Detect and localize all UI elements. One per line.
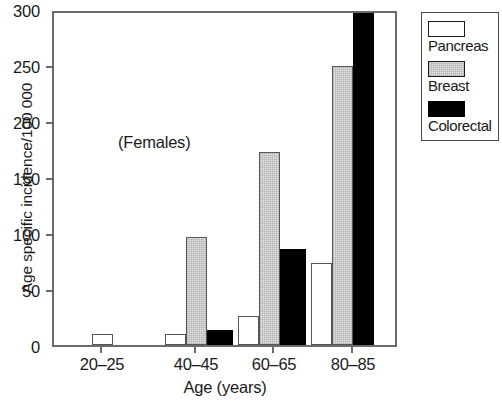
x-tick-mark (100, 347, 102, 353)
bar-pancreas-40-45 (165, 334, 186, 345)
y-axis: 300 250 200 150 100 50 0 Age specific in… (0, 0, 52, 401)
x-tick-mark (272, 347, 274, 353)
x-tick-label-80-85: 80–85 (331, 356, 375, 373)
legend-item-breast: Breast (428, 61, 494, 94)
legend-swatch-pancreas-icon (428, 21, 465, 37)
plot-area (54, 13, 395, 345)
plot-area-frame (52, 11, 397, 347)
x-tick-label-20-25: 20–25 (80, 356, 124, 373)
bar-colorectal-60-65 (280, 249, 306, 345)
bar-breast-60-65 (259, 152, 280, 345)
bar-breast-80-85 (332, 66, 353, 345)
x-axis-title: Age (years) (0, 378, 450, 397)
bar-colorectal-80-85 (353, 13, 374, 345)
y-axis-title: Age specific incidence/100 000 (18, 38, 36, 338)
bar-breast-40-45 (186, 237, 207, 345)
legend-swatch-colorectal-icon (428, 101, 465, 117)
bar-colorectal-40-45 (207, 330, 233, 345)
bar-chart-figure: 300 250 200 150 100 50 0 Age specific in… (0, 0, 502, 401)
legend-item-colorectal: Colorectal (428, 101, 494, 134)
legend-label-colorectal: Colorectal (428, 118, 494, 134)
x-tick-label-40-45: 40–45 (174, 356, 218, 373)
x-tick-label-60-65: 60–65 (252, 356, 296, 373)
y-tick-label: 0 (31, 339, 40, 356)
bar-pancreas-20-25 (92, 334, 113, 345)
y-tick-label: 300 (13, 3, 40, 20)
legend-item-pancreas: Pancreas (428, 21, 494, 54)
x-tick-mark (194, 347, 196, 353)
annotation-females: (Females) (118, 133, 190, 152)
legend-label-pancreas: Pancreas (428, 38, 494, 54)
x-tick-mark (351, 347, 353, 353)
legend-label-breast: Breast (428, 78, 494, 94)
bar-pancreas-80-85 (311, 263, 332, 345)
legend: Pancreas Breast Colorectal (421, 12, 499, 141)
bar-pancreas-60-65 (238, 316, 259, 345)
legend-swatch-breast-icon (428, 61, 465, 77)
